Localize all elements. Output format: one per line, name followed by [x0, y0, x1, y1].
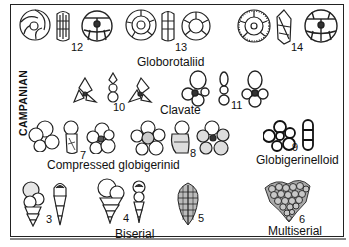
specimen-3-apertural-view	[52, 180, 68, 226]
specimen-number-3: 3	[46, 213, 52, 225]
specimen-8-spiral-view	[130, 120, 166, 156]
specimen-number-9: 9	[292, 141, 298, 153]
specimen-12-edge-view	[54, 9, 72, 43]
specimen-11-edge-view	[218, 71, 230, 107]
group-label-compressed-globigerinid: Compressed globigerinid	[47, 158, 180, 172]
group-label-globigerinelloid: Globigerinelloid	[256, 153, 339, 167]
specimen-8-edge-view	[168, 120, 192, 156]
specimen-14-spiral-view	[236, 8, 272, 44]
specimen-12-umbilical-view	[80, 8, 114, 44]
frame-shadow	[10, 238, 346, 240]
group-label-globorotaliid: Globorotaliid	[137, 55, 204, 69]
specimen-9-edge-view	[301, 118, 315, 152]
specimen-number-14: 14	[291, 41, 303, 53]
specimen-3-side-view	[20, 181, 46, 227]
specimen-13-spiral-view	[124, 8, 158, 42]
specimen-7-spiral-view	[28, 120, 60, 152]
specimen-10-spiral-view	[72, 76, 98, 104]
specimen-10-umbilical-view	[127, 76, 153, 104]
specimen-number-10: 10	[113, 101, 125, 113]
specimen-13-umbilical-view	[180, 8, 212, 44]
specimen-11-umbilical-view	[241, 70, 269, 110]
specimen-7-edge-view	[63, 120, 81, 156]
specimen-4-side-view	[95, 178, 125, 224]
specimen-14-umbilical-view	[303, 8, 339, 44]
specimen-4-apertural-view	[131, 180, 147, 224]
specimen-14-edge-view	[275, 9, 293, 45]
group-label-clavate: Clavate	[160, 103, 201, 117]
specimen-8-umbilical-view	[196, 120, 230, 156]
group-label-multiserial: Multiserial	[268, 224, 322, 238]
specimen-13-edge-view	[160, 9, 176, 43]
specimen-12-spiral-view	[18, 8, 52, 42]
specimen-number-4: 4	[123, 212, 129, 224]
specimen-number-11: 11	[231, 99, 242, 111]
specimen-5	[176, 182, 200, 226]
specimen-number-12: 12	[71, 41, 83, 53]
specimen-7-umbilical-view	[86, 122, 116, 154]
specimen-number-13: 13	[175, 41, 187, 53]
group-label-biserial: Biserial	[115, 227, 154, 241]
specimen-number-5: 5	[198, 212, 204, 224]
specimen-number-8: 8	[190, 147, 196, 159]
